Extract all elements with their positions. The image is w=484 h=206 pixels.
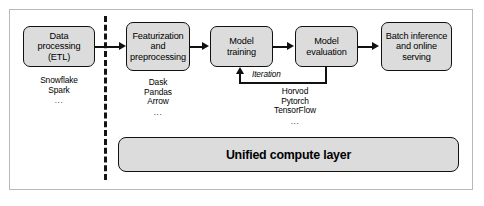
tool-arrow: Arrow (126, 97, 190, 107)
arrow-2-head (202, 42, 209, 50)
node-batch-inference-line2: and online (386, 41, 448, 52)
node-batch-inference: Batch inference and online serving (381, 22, 452, 71)
tool-spark: Spark (23, 86, 95, 96)
iteration-arrow-head (236, 67, 244, 74)
iteration-path-left (239, 82, 327, 84)
node-batch-inference-line1: Batch inference (386, 31, 448, 42)
arrow-1-head (119, 42, 126, 50)
node-model-evaluation: Model evaluation (295, 26, 358, 67)
node-featurization-line3: preprocessing (130, 52, 186, 63)
node-model-evaluation-line2: evaluation (306, 47, 346, 58)
node-featurization-line2: and (130, 41, 186, 52)
node-model-training: Model training (210, 26, 273, 67)
tools-training-ellipsis: ... (258, 116, 332, 127)
arrow-3-head (287, 42, 294, 50)
tools-data-processing-ellipsis: ... (23, 95, 95, 106)
node-featurization-line1: Featurization (130, 31, 186, 42)
node-batch-inference-line3: serving (386, 52, 448, 63)
node-model-evaluation-line1: Model (306, 36, 346, 47)
tools-featurization-ellipsis: ... (126, 107, 190, 118)
iteration-path-up (239, 74, 241, 84)
unified-compute-layer: Unified compute layer (118, 137, 459, 172)
tools-data-processing: Snowflake Spark ... (23, 76, 95, 106)
unified-compute-layer-label: Unified compute layer (226, 148, 351, 162)
iteration-label: Iteration (252, 70, 281, 79)
node-data-processing-line2: (ETL) (27, 52, 91, 63)
pipeline-diagram: Data processing (ETL) Snowflake Spark ..… (0, 0, 484, 206)
arrow-4-head (372, 42, 379, 50)
tools-featurization: Dask Pandas Arrow ... (126, 78, 190, 117)
arrow-1-line (95, 46, 121, 48)
tools-training: Horvod Pytorch TensorFlow ... (258, 87, 332, 126)
tool-tensorflow: TensorFlow (258, 106, 332, 116)
node-data-processing: Data processing (ETL) (23, 26, 95, 67)
dashed-divider (104, 16, 107, 180)
node-featurization: Featurization and preprocessing (126, 22, 190, 71)
node-model-training-line1: Model training (214, 36, 269, 57)
node-data-processing-line1: Data processing (27, 31, 91, 52)
